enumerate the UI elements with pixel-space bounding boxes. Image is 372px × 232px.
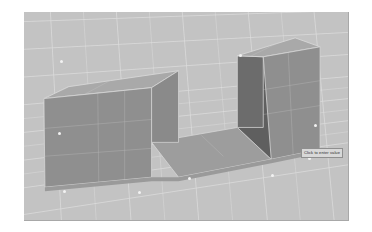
vertex-marker-layer [24, 12, 348, 220]
vertex-marker [58, 132, 61, 135]
cad-application-window: Click to enter value [0, 0, 372, 232]
vertex-marker [271, 174, 274, 177]
vertex-marker [314, 124, 317, 127]
vertex-marker [63, 190, 66, 193]
vertex-marker [239, 54, 242, 57]
vertex-marker [188, 177, 191, 180]
vertex-marker [138, 191, 141, 194]
value-entry-tooltip[interactable]: Click to enter value [301, 148, 343, 158]
vertex-marker [60, 60, 63, 63]
modeling-viewport[interactable]: Click to enter value [24, 12, 349, 221]
